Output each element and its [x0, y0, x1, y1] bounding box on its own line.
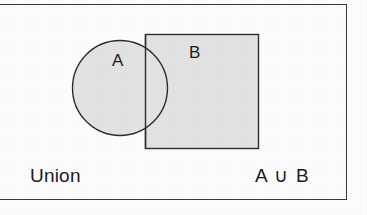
venn-diagram-figure: A B Union A ∪ B: [0, 0, 367, 215]
set-b-label: B: [189, 44, 200, 61]
set-a-label: A: [112, 52, 123, 69]
operation-caption: Union: [30, 166, 81, 185]
set-expression-caption: A ∪ B: [255, 166, 310, 185]
